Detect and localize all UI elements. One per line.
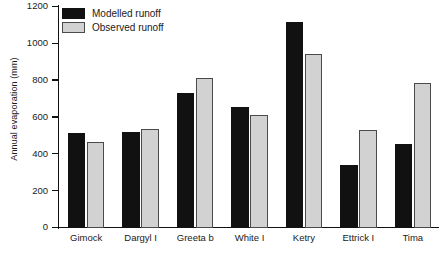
x-axis-category-label: Ettrick I bbox=[340, 233, 377, 243]
bar-group: Ketry bbox=[286, 7, 323, 228]
bar-modelled bbox=[395, 144, 413, 228]
bar-group: Dargyl I bbox=[122, 7, 159, 228]
y-axis-tick-label: 1200 bbox=[27, 2, 48, 12]
y-axis-tick-label: 800 bbox=[32, 75, 48, 85]
bar-observed bbox=[414, 83, 432, 228]
bar-modelled bbox=[286, 22, 304, 228]
bar-modelled bbox=[122, 132, 140, 228]
bar-observed bbox=[141, 129, 159, 228]
bar-group: Gimock bbox=[68, 7, 105, 228]
bar-group: Greeta b bbox=[177, 7, 214, 228]
y-axis-tick: 0 bbox=[52, 227, 58, 228]
y-axis-tick-label: 1000 bbox=[27, 39, 48, 49]
x-axis-category-label: Gimock bbox=[68, 233, 105, 243]
bar-observed bbox=[87, 142, 105, 228]
bar-modelled bbox=[340, 165, 358, 228]
bar-chart: Annual evaporation (mm) Modelled runoff … bbox=[0, 0, 443, 261]
bar-modelled bbox=[177, 93, 195, 228]
bar-group: Tima bbox=[395, 7, 432, 228]
plot-area: 020040060080010001200 GimockDargyl IGree… bbox=[58, 7, 439, 228]
y-axis-tick: 200 bbox=[52, 190, 58, 191]
y-axis-tick: 800 bbox=[52, 79, 58, 80]
y-axis-tick-label: 600 bbox=[32, 112, 48, 122]
x-axis-category-label: Dargyl I bbox=[122, 233, 159, 243]
bar-group: Ettrick I bbox=[340, 7, 377, 228]
x-axis-category-label: Ketry bbox=[286, 233, 323, 243]
y-axis-tick-label: 400 bbox=[32, 149, 48, 159]
y-axis-tick: 600 bbox=[52, 116, 58, 117]
y-axis-tick: 400 bbox=[52, 153, 58, 154]
x-axis-category-label: Tima bbox=[395, 233, 432, 243]
bar-modelled bbox=[68, 133, 86, 228]
y-axis-tick: 1000 bbox=[52, 43, 58, 44]
bar-modelled bbox=[231, 107, 249, 228]
bar-observed bbox=[305, 54, 323, 228]
bar-observed bbox=[196, 78, 214, 228]
x-axis-category-label: Greeta b bbox=[177, 233, 214, 243]
y-axis-tick-label: 0 bbox=[43, 223, 48, 233]
y-axis-line bbox=[58, 5, 59, 229]
bar-observed bbox=[359, 130, 377, 228]
y-axis-tick-label: 200 bbox=[32, 186, 48, 196]
y-axis-title: Annual evaporation (mm) bbox=[9, 29, 19, 189]
bar-group: White I bbox=[231, 7, 268, 228]
y-axis-tick: 1200 bbox=[52, 6, 58, 7]
x-axis-category-label: White I bbox=[231, 233, 268, 243]
bar-observed bbox=[250, 115, 268, 228]
